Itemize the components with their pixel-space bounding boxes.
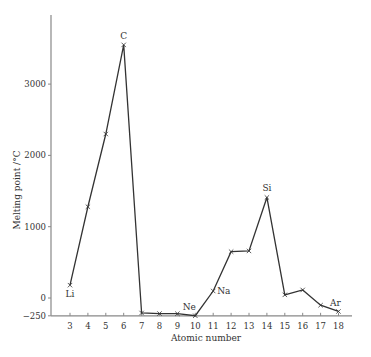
- y-axis-title: Melting point /°C: [12, 150, 22, 229]
- x-tick-label: 9: [175, 321, 180, 331]
- point-label-li: Li: [66, 289, 75, 299]
- x-tick-label: 3: [67, 321, 72, 331]
- series-line: [70, 45, 339, 316]
- x-axis-title: Atomic number: [170, 333, 242, 343]
- x-tick-label: 8: [157, 321, 162, 331]
- point-label-c: C: [120, 31, 127, 41]
- x-tick-label: 7: [139, 321, 144, 331]
- y-tick-label: 3000: [24, 79, 46, 89]
- point-label-na: Na: [217, 286, 231, 296]
- x-tick-label: 18: [333, 321, 344, 331]
- y-tick-label: 2000: [24, 150, 46, 160]
- x-tick-label: 5: [103, 321, 108, 331]
- data-series: [68, 43, 341, 318]
- y-tick-label: 0: [41, 293, 46, 303]
- x-tick-label: 14: [261, 321, 272, 331]
- point-label-ne: Ne: [183, 302, 196, 312]
- x-tick-label: 4: [85, 321, 90, 331]
- x-tick-label: 6: [121, 321, 126, 331]
- point-label-si: Si: [262, 183, 271, 193]
- x-tick-label: 15: [279, 321, 290, 331]
- x-tick-label: 11: [208, 321, 219, 331]
- x-tick-label: 10: [190, 321, 201, 331]
- melting-point-chart: −250010002000300034567891011121314151617…: [0, 0, 371, 357]
- point-label-ar: Ar: [329, 298, 341, 308]
- y-tick-label: −250: [23, 311, 46, 321]
- x-tick-label: 16: [297, 321, 308, 331]
- point-labels: LiCNeNaSiAr: [66, 31, 342, 312]
- x-tick-label: 17: [315, 321, 326, 331]
- x-tick-label: 12: [226, 321, 237, 331]
- y-tick-label: 1000: [24, 222, 46, 232]
- x-tick-label: 13: [244, 321, 255, 331]
